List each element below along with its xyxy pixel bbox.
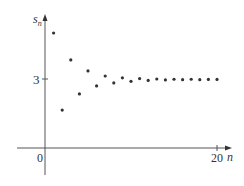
data-point [147, 79, 150, 82]
data-point [181, 78, 184, 81]
data-point [95, 84, 98, 87]
sequence-plot: 3 0 20 n sn [0, 0, 244, 186]
data-point [86, 69, 89, 72]
data-point [190, 78, 193, 81]
data-point [164, 78, 167, 81]
data-point [52, 31, 55, 34]
data-point [78, 92, 81, 95]
y-axis-label: sn [33, 12, 42, 28]
x-axis-label: n [227, 150, 233, 164]
data-point [155, 77, 158, 80]
data-point [69, 58, 72, 61]
data-point [198, 78, 201, 81]
y-axis-arrow-icon [43, 14, 48, 21]
data-point [172, 78, 175, 81]
data-points [52, 31, 219, 111]
x-tick-label-20: 20 [211, 151, 223, 165]
data-point [207, 78, 210, 81]
origin-label: 0 [37, 151, 43, 165]
y-tick-label-3: 3 [33, 72, 40, 87]
data-point [129, 80, 132, 83]
data-point [104, 74, 107, 77]
data-point [121, 76, 124, 79]
data-point [215, 78, 218, 81]
data-point [112, 81, 115, 84]
data-point [138, 77, 141, 80]
data-point [61, 108, 64, 111]
